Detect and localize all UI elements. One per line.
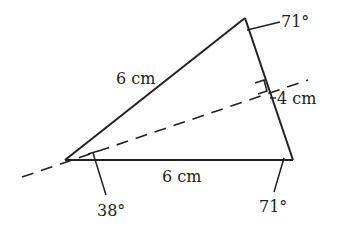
label-side-ab: 6 cm xyxy=(116,69,155,88)
label-perpendicular: 4 cm xyxy=(277,89,316,108)
side-ab xyxy=(65,18,245,160)
label-angle-c: 71° xyxy=(259,197,287,216)
leader-angle-b xyxy=(247,22,280,30)
dashed-bisector-line xyxy=(22,80,308,177)
label-angle-a: 38° xyxy=(97,201,125,220)
label-side-ac: 6 cm xyxy=(162,167,201,186)
triangle-diagram: 6 cm 71° 4 cm 6 cm 38° 71° xyxy=(0,0,339,227)
leader-angle-c xyxy=(274,158,284,192)
right-angle-marker xyxy=(255,80,267,94)
label-angle-b: 71° xyxy=(281,12,309,31)
